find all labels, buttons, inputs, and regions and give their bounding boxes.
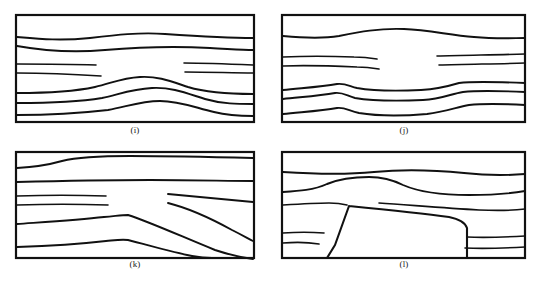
panel-k-reflector-4 bbox=[17, 204, 108, 205]
figure-root: (i) (j) (k) bbox=[0, 0, 539, 288]
panel-i-reflector-4-right bbox=[185, 72, 253, 73]
panel-k-reflector-3 bbox=[17, 195, 106, 196]
panel-j-caption: (j) bbox=[269, 126, 539, 135]
panel-k-caption: (k) bbox=[0, 260, 270, 269]
panel-l-caption: (l) bbox=[269, 260, 539, 269]
panel-k: (k) bbox=[0, 140, 270, 288]
panel-k-drawing bbox=[0, 140, 270, 264]
panel-i: (i) bbox=[0, 0, 270, 144]
panel-j-drawing bbox=[269, 0, 539, 132]
panel-j: (j) bbox=[269, 0, 539, 144]
panel-i-frame bbox=[16, 15, 254, 122]
panel-i-drawing bbox=[0, 0, 270, 132]
panel-j-frame bbox=[282, 15, 525, 122]
panel-l-drawing bbox=[269, 140, 539, 264]
panel-l-reflector-4-left bbox=[283, 232, 324, 233]
panel-l: (l) bbox=[269, 140, 539, 288]
panel-i-caption: (i) bbox=[0, 126, 270, 135]
